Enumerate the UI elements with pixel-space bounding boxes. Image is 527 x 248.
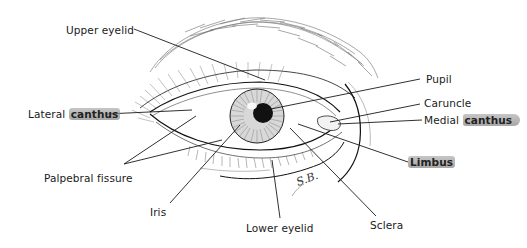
label-medial-canthus: Medial canthus: [424, 114, 520, 126]
label-lower-eyelid-text: Lower eyelid: [246, 222, 314, 234]
leader-iris: [170, 125, 240, 203]
highlighted-term-canthus: canthus: [463, 114, 521, 126]
label-iris: Iris: [150, 206, 166, 218]
label-sclera-text: Sclera: [370, 219, 403, 231]
label-caruncle-text: Caruncle: [424, 97, 471, 109]
label-upper-eyelid: Upper eyelid: [66, 24, 134, 36]
label-iris-text: Iris: [150, 206, 166, 218]
highlighted-term-limbus: Limbus: [408, 156, 455, 168]
label-medial-canthus-prefix: Medial: [424, 114, 459, 126]
label-palpebral-fissure-text: Palpebral fissure: [44, 172, 132, 184]
leader-caruncle: [330, 104, 420, 122]
leader-upper-eyelid: [134, 29, 265, 80]
leader-limbus: [298, 124, 408, 162]
highlighted-term-canthus: canthus: [69, 108, 121, 120]
label-upper-eyelid-text: Upper eyelid: [66, 24, 134, 36]
leader-lower-eyelid: [272, 160, 280, 218]
eye-anatomy-diagram: S.B. Upper eyelid: [0, 0, 527, 248]
label-limbus: Limbus: [408, 156, 455, 168]
label-pupil-text: Pupil: [426, 73, 452, 85]
label-lower-eyelid: Lower eyelid: [246, 222, 314, 234]
corneal-reflection: [247, 103, 257, 110]
label-pupil: Pupil: [426, 73, 452, 85]
label-lateral-canthus-prefix: Lateral: [28, 108, 65, 120]
leader-palpebral-fissure-2: [124, 140, 222, 164]
caruncle: [317, 116, 340, 131]
leader-sclera: [290, 128, 376, 216]
label-palpebral-fissure: Palpebral fissure: [44, 172, 132, 184]
leader-pupil: [266, 79, 420, 110]
label-sclera: Sclera: [370, 219, 403, 231]
label-caruncle: Caruncle: [424, 97, 471, 109]
eyebrow: [150, 18, 378, 78]
leader-medial-canthus: [338, 120, 422, 124]
label-lateral-canthus: Lateral canthus: [28, 108, 120, 120]
